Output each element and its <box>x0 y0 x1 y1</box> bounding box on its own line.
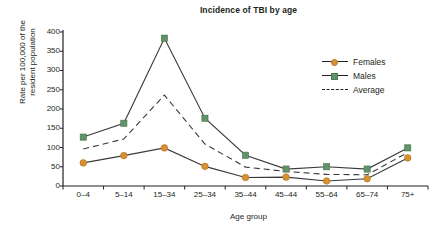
x-tick-label: 45–44 <box>264 191 308 199</box>
x-tick-label: 25–34 <box>183 191 227 199</box>
x-tick-label: 55–64 <box>305 191 349 199</box>
chart-figure: Incidence of TBI by age Rate per 100,000… <box>0 0 437 236</box>
x-axis-title: Age group <box>60 212 437 221</box>
data-point-males <box>405 145 411 151</box>
data-point-males <box>364 166 370 172</box>
data-point-females <box>121 152 128 159</box>
x-tick-label: 5–14 <box>102 191 146 199</box>
circle-marker-icon <box>322 56 348 68</box>
data-point-males <box>283 166 289 172</box>
data-point-females <box>202 163 209 170</box>
data-point-females <box>323 178 330 185</box>
chart-legend: Females Males Average <box>322 55 386 97</box>
x-tick-label: 75+ <box>386 191 430 199</box>
data-point-males <box>242 152 248 158</box>
data-point-males <box>121 120 127 126</box>
legend-label: Females <box>353 55 386 69</box>
legend-label: Males <box>353 69 376 83</box>
legend-item-males: Males <box>322 69 386 83</box>
data-point-females <box>161 145 168 152</box>
legend-label: Average <box>353 83 385 97</box>
x-tick-label: 35–44 <box>224 191 268 199</box>
plot-canvas <box>0 0 437 236</box>
data-point-females <box>80 160 87 167</box>
data-point-females <box>404 155 411 162</box>
data-point-females <box>242 174 249 181</box>
dashed-line-marker-icon <box>322 84 348 96</box>
x-tick-label: 15–34 <box>142 191 186 199</box>
data-point-males <box>161 35 167 41</box>
data-point-males <box>324 164 330 170</box>
legend-item-females: Females <box>322 55 386 69</box>
data-point-females <box>283 174 290 181</box>
square-marker-icon <box>322 70 348 82</box>
x-tick-label: 0–4 <box>61 191 105 199</box>
data-point-females <box>364 175 371 182</box>
data-point-males <box>202 115 208 121</box>
data-point-males <box>80 134 86 140</box>
x-tick-label: 65–74 <box>345 191 389 199</box>
legend-item-average: Average <box>322 83 386 97</box>
